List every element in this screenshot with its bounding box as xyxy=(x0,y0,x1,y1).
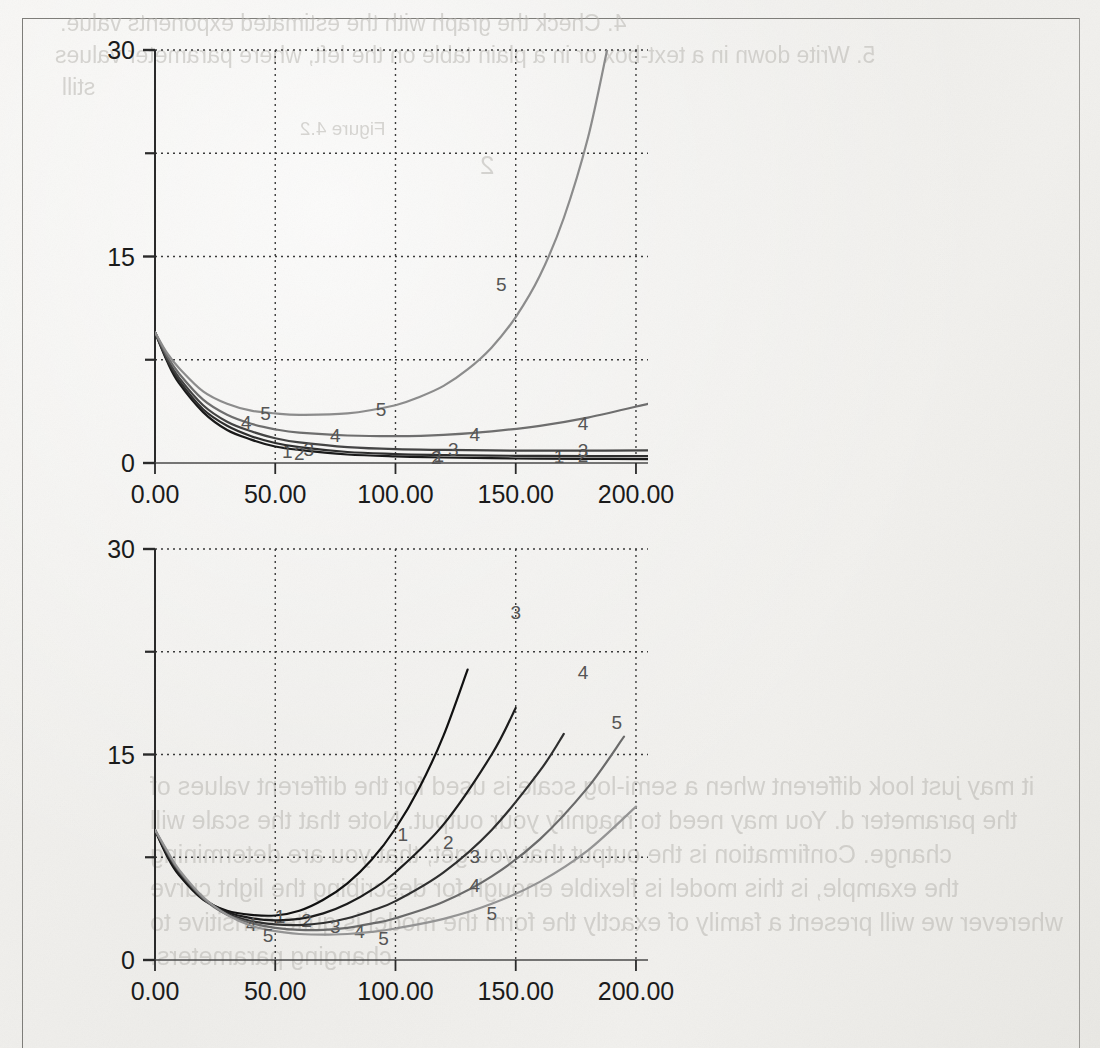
series-label-3: 3 xyxy=(304,439,315,460)
series-label-2: 2 xyxy=(443,832,454,853)
series-label-5: 5 xyxy=(260,403,271,424)
x-tick-label: 200.00 xyxy=(598,977,674,1005)
series-label-5: 5 xyxy=(486,903,497,924)
x-tick-label: 0.00 xyxy=(131,977,180,1005)
series-line-1 xyxy=(155,332,648,459)
x-tick-label: 100.00 xyxy=(357,480,433,508)
series-label-1: 1 xyxy=(397,824,408,845)
series-label-5: 5 xyxy=(376,399,387,420)
series-label-4: 4 xyxy=(470,424,481,445)
y-tick-label: 0 xyxy=(121,449,135,477)
series-label-4: 4 xyxy=(470,875,481,896)
x-tick-label: 200.00 xyxy=(598,480,674,508)
series-label-2: 2 xyxy=(301,910,312,931)
series-line-4 xyxy=(155,737,624,930)
series-label-5: 5 xyxy=(611,712,622,733)
y-tick-label: 30 xyxy=(107,535,135,563)
chart-upper: 015300.0050.00100.00150.00200.0011122233… xyxy=(0,18,1080,518)
series-label-4: 4 xyxy=(330,425,341,446)
x-tick-label: 0.00 xyxy=(131,480,180,508)
series-label-3: 3 xyxy=(470,846,481,867)
chart-lower: 015300.0050.00100.00150.00200.0011223334… xyxy=(0,518,1080,1038)
series-label-3: 3 xyxy=(510,602,521,623)
y-tick-label: 15 xyxy=(107,741,135,769)
series-line-2 xyxy=(155,332,648,456)
series-label-5: 5 xyxy=(263,925,274,946)
series-label-3: 3 xyxy=(578,440,589,461)
series-label-4: 4 xyxy=(354,921,365,942)
series-label-5: 5 xyxy=(496,274,507,295)
x-tick-label: 50.00 xyxy=(244,977,307,1005)
series-layer: 1112223334444555 xyxy=(155,50,648,468)
y-tick-label: 30 xyxy=(107,36,135,64)
series-label-4: 4 xyxy=(578,662,589,683)
x-tick-label: 150.00 xyxy=(477,480,553,508)
series-label-5: 5 xyxy=(378,928,389,949)
x-tick-label: 150.00 xyxy=(477,977,553,1005)
series-line-2 xyxy=(155,708,516,920)
series-label-3: 3 xyxy=(448,439,459,460)
x-tick-label: 100.00 xyxy=(357,977,433,1005)
series-label-4: 4 xyxy=(241,412,252,433)
x-tick-label: 50.00 xyxy=(244,480,307,508)
y-tick-label: 15 xyxy=(107,243,135,271)
series-line-1 xyxy=(155,670,468,916)
series-line-3 xyxy=(155,332,648,450)
y-tick-label: 0 xyxy=(121,946,135,974)
series-label-4: 4 xyxy=(578,413,589,434)
series-line-4 xyxy=(155,332,648,436)
